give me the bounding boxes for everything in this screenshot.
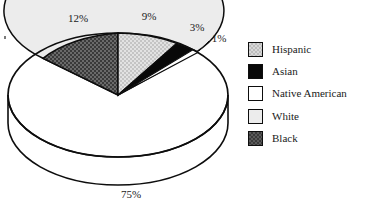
- label-hispanic-pct: 9%: [142, 10, 157, 22]
- legend-label-native-american: Native American: [272, 88, 347, 99]
- label-asian-pct: 3%: [190, 21, 205, 33]
- legend-label-asian: Asian: [272, 66, 298, 77]
- legend-label-white: White: [272, 111, 299, 122]
- label-native-american-pct: 1%: [212, 32, 227, 44]
- native-american-swatch-icon: [248, 86, 263, 101]
- legend-item-native-american[interactable]: Native American: [248, 83, 370, 105]
- asian-swatch-icon: [248, 64, 263, 79]
- legend-label-black: Black: [272, 133, 298, 144]
- legend-item-asian[interactable]: Asian: [248, 60, 370, 82]
- legend-item-black[interactable]: Black: [248, 128, 370, 150]
- legend-item-white[interactable]: White: [248, 105, 370, 127]
- label-black-pct: 12%: [68, 12, 88, 24]
- chart-legend: Hispanic Asian Native American White Bla…: [248, 38, 370, 150]
- pie-chart-figure: 9% 3% 1% 12% 75% Hispanic Asian Native A…: [0, 0, 370, 205]
- label-white-pct: 75%: [121, 188, 141, 200]
- hispanic-swatch-icon: [248, 42, 263, 57]
- legend-item-hispanic[interactable]: Hispanic: [248, 38, 370, 60]
- black-swatch-icon: [248, 131, 263, 146]
- white-swatch-icon: [248, 109, 263, 124]
- legend-label-hispanic: Hispanic: [272, 44, 311, 55]
